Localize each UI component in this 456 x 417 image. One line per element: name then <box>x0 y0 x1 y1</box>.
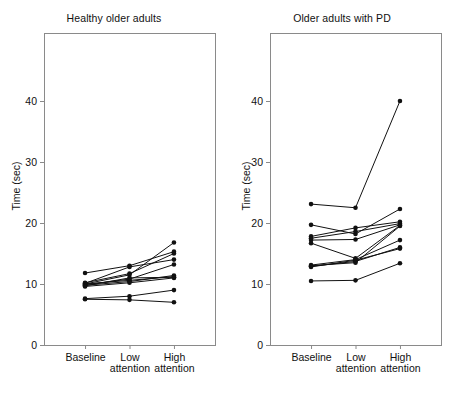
data-point-marker <box>309 263 314 268</box>
x-tick-label: attention <box>154 362 194 374</box>
figure-root: Healthy older adults Time (sec) 01020304… <box>0 0 456 417</box>
x-tick-label: Baseline <box>291 351 331 363</box>
data-point-marker <box>172 288 177 293</box>
x-tick-label: attention <box>380 362 420 374</box>
data-point-marker <box>172 276 177 281</box>
data-point-marker <box>398 207 403 212</box>
data-point-marker <box>353 260 358 265</box>
data-point-marker <box>127 271 132 276</box>
data-point-marker <box>83 271 88 276</box>
data-point-marker <box>398 246 403 251</box>
y-tick-label: 40 <box>25 95 37 107</box>
data-point-marker <box>353 229 358 234</box>
series-line <box>311 101 400 208</box>
data-point-marker <box>398 224 403 229</box>
y-tick-label: 0 <box>257 339 263 351</box>
data-point-marker <box>172 240 177 245</box>
panel-older-adults-with-pd: Older adults with PD Time (sec) 01020304… <box>228 0 456 417</box>
y-tick-label: 10 <box>25 278 37 290</box>
data-point-marker <box>309 241 314 246</box>
data-point-marker <box>83 284 88 289</box>
data-point-marker <box>83 297 88 302</box>
data-point-marker <box>309 223 314 228</box>
y-tick-label: 10 <box>251 278 263 290</box>
x-tick-label: Baseline <box>65 351 105 363</box>
data-point-marker <box>398 99 403 104</box>
data-point-marker <box>127 265 132 270</box>
plot-area: 010203040BaselineLowattentionHighattenti… <box>228 0 456 417</box>
y-tick-label: 40 <box>251 95 263 107</box>
data-point-marker <box>172 251 177 256</box>
data-point-marker <box>353 278 358 283</box>
data-point-marker <box>398 238 403 243</box>
x-tick-label: attention <box>336 362 376 374</box>
data-point-marker <box>172 257 177 262</box>
y-tick-label: 30 <box>251 156 263 168</box>
data-point-marker <box>172 262 177 267</box>
data-point-marker <box>127 280 132 285</box>
y-tick-label: 0 <box>31 339 37 351</box>
plot-area: 010203040BaselineLowattentionHighattenti… <box>0 0 228 417</box>
data-point-marker <box>127 298 132 303</box>
data-point-marker <box>353 205 358 210</box>
y-tick-label: 30 <box>25 156 37 168</box>
data-point-marker <box>398 261 403 266</box>
x-tick-label: attention <box>110 362 150 374</box>
data-point-marker <box>309 279 314 284</box>
series-line <box>85 252 174 273</box>
panel-healthy-older-adults: Healthy older adults Time (sec) 01020304… <box>0 0 228 417</box>
data-point-marker <box>309 202 314 207</box>
data-point-marker <box>353 237 358 242</box>
y-tick-label: 20 <box>25 217 37 229</box>
data-point-marker <box>127 276 132 281</box>
data-point-marker <box>172 300 177 305</box>
y-tick-label: 20 <box>251 217 263 229</box>
